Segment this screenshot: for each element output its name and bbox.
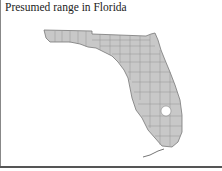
lake-okeechobee: [161, 106, 171, 116]
bottom-border: [0, 166, 222, 168]
florida-map: [0, 0, 222, 171]
florida-keys: [143, 149, 164, 157]
florida-shape: [44, 30, 182, 147]
range-map-figure: Presumed range in Florida: [0, 0, 222, 171]
